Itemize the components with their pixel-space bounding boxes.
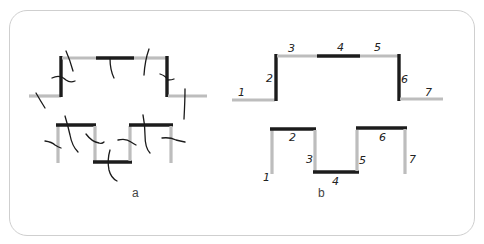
segment-label: 2 (266, 72, 273, 85)
tick-mark (108, 150, 117, 181)
panel-b: 1 2 3 4 5 6 7 1 2 3 4 5 6 7 b (232, 41, 443, 200)
tick-mark (162, 138, 185, 142)
segment-label: 6 (401, 73, 408, 86)
panel-b-bottom-labels: 1 2 3 4 5 6 7 (263, 131, 416, 188)
tick-mark (143, 115, 150, 153)
segment-label: 4 (332, 175, 339, 188)
tick-mark (65, 116, 78, 152)
segment-label: 7 (425, 86, 432, 99)
tick-mark (66, 51, 73, 71)
tick-mark (52, 76, 75, 81)
panel-b-top-labels: 1 2 3 4 5 6 7 (238, 41, 432, 99)
tick-mark (144, 49, 149, 75)
diagram-canvas: a 1 2 3 4 5 6 7 (0, 0, 484, 244)
segment-label: 6 (379, 131, 386, 144)
panel-a-label: a (132, 186, 139, 200)
segment-label: 1 (263, 171, 270, 184)
panel-b-top-path (232, 54, 443, 101)
segment-label: 7 (409, 153, 416, 166)
segment-label: 3 (306, 153, 313, 166)
tick-mark (118, 139, 136, 145)
panel-a: a (29, 49, 207, 200)
segment-label: 5 (374, 41, 381, 54)
segment-label: 5 (359, 154, 366, 167)
segment-label: 2 (289, 131, 296, 144)
panel-b-label: b (318, 186, 325, 200)
panel-a-bottom-path (56, 125, 173, 163)
segment-label: 1 (238, 86, 245, 99)
segment-label: 4 (337, 41, 344, 54)
tick-mark (110, 58, 114, 78)
tick-mark (184, 89, 185, 119)
segment-label: 3 (288, 42, 295, 55)
